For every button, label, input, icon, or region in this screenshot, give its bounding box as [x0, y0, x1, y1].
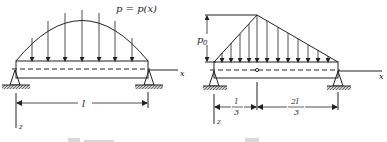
caption-fragments	[68, 138, 259, 142]
right-dim-numerator: 2l	[290, 97, 299, 106]
load-arrows	[222, 15, 328, 62]
load-peak-point	[255, 68, 258, 71]
span-label: l	[82, 98, 85, 109]
z-axis-label: z	[18, 123, 23, 131]
load-arrows	[32, 10, 132, 61]
x-axis-label: x	[379, 72, 384, 81]
right-support	[327, 71, 351, 90]
right-dim-denominator: 3	[294, 108, 299, 117]
load-function-label: p = p(x)	[116, 3, 157, 14]
left-support	[203, 71, 227, 90]
peak-load-subscript: 0	[203, 39, 208, 47]
z-axis-label: z	[216, 118, 221, 126]
left-dim-numerator: l	[235, 97, 238, 106]
x-axis-label: x	[180, 69, 185, 78]
triangular-load-outline	[214, 15, 338, 62]
right-support	[135, 70, 163, 89]
beam-diagrams: p = p(x) x z l	[0, 0, 387, 142]
left-dim-denominator: 3	[234, 108, 239, 117]
left-support	[2, 70, 30, 89]
right-beam-figure	[203, 15, 382, 124]
left-beam-figure	[2, 10, 178, 128]
